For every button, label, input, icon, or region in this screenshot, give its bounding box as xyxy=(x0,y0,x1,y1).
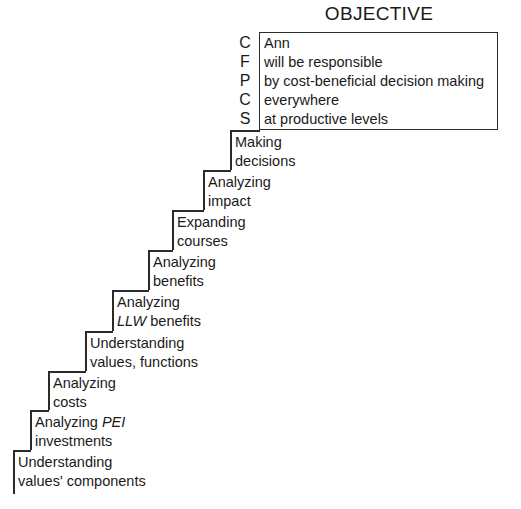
step-riser-line xyxy=(230,130,232,170)
step-tread-line xyxy=(230,130,260,132)
step-label-line1: Understanding xyxy=(18,453,146,472)
step-riser-line xyxy=(13,450,15,494)
step-label-line1: Analyzing xyxy=(208,173,271,192)
step-tread-line xyxy=(13,450,31,452)
step-tread-line xyxy=(85,331,113,333)
objective-line: by cost-beneficial decision making xyxy=(264,72,496,91)
objective-line: Ann xyxy=(264,34,496,53)
step-label-line1: Analyzing xyxy=(53,374,116,393)
step-label-line2: values, functions xyxy=(90,353,198,372)
step-label-line1: Making xyxy=(235,133,295,152)
step-riser-line xyxy=(203,170,205,210)
step-label: Expandingcourses xyxy=(177,213,246,251)
cfpcs-letter-column: C F P C S xyxy=(235,33,255,128)
step-label-line2: costs xyxy=(53,393,116,412)
step-riser-line xyxy=(148,250,150,290)
step-riser-line xyxy=(30,410,32,450)
step-label-line1: Understanding xyxy=(90,334,198,353)
step-tread-line xyxy=(203,170,231,172)
staircase-diagram: OBJECTIVE C F P C S Ann will be responsi… xyxy=(0,0,521,509)
cfpcs-letter: C xyxy=(235,90,255,109)
page-title: OBJECTIVE xyxy=(259,2,499,26)
step-tread-line xyxy=(112,290,149,292)
cfpcs-letter: S xyxy=(235,109,255,128)
step-label: Understandingvalues, functions xyxy=(90,334,198,372)
step-label: Understandingvalues' components xyxy=(18,453,146,491)
step-label-line2: benefits xyxy=(153,272,216,291)
step-label-emphasis: LLW xyxy=(117,313,146,329)
step-label: Analyzing PEIinvestments xyxy=(35,413,125,451)
step-label-emphasis: PEI xyxy=(102,414,125,430)
step-label-line1: Analyzing xyxy=(117,293,201,312)
step-riser-line xyxy=(48,371,50,410)
cfpcs-letter: F xyxy=(235,52,255,71)
step-label: Analyzingimpact xyxy=(208,173,271,211)
objective-line: everywhere xyxy=(264,91,496,110)
step-riser-line xyxy=(112,290,114,331)
cfpcs-letter: P xyxy=(235,71,255,90)
step-label-line2: LLW benefits xyxy=(117,312,201,331)
step-tread-line xyxy=(148,250,173,252)
step-riser-line xyxy=(172,210,174,250)
objective-line: will be responsible xyxy=(264,53,496,72)
step-riser-line xyxy=(85,331,87,371)
step-label: Analyzingbenefits xyxy=(153,253,216,291)
step-label-line1: Analyzing xyxy=(153,253,216,272)
step-label-line2: decisions xyxy=(235,152,295,171)
step-label-line2: investments xyxy=(35,432,125,451)
step-label: AnalyzingLLW benefits xyxy=(117,293,201,331)
step-tread-line xyxy=(30,410,49,412)
objective-line: at productive levels xyxy=(264,110,496,129)
objective-text: Ann will be responsible by cost-benefici… xyxy=(264,34,496,129)
step-label-line2: values' components xyxy=(18,472,146,491)
step-label-line2: impact xyxy=(208,192,271,211)
cfpcs-letter: C xyxy=(235,33,255,52)
step-label-line2: courses xyxy=(177,232,246,251)
step-label-line1: Analyzing PEI xyxy=(35,413,125,432)
step-tread-line xyxy=(48,371,86,373)
step-label: Analyzingcosts xyxy=(53,374,116,412)
step-label: Makingdecisions xyxy=(235,133,295,171)
step-tread-line xyxy=(172,210,204,212)
step-label-line1: Expanding xyxy=(177,213,246,232)
